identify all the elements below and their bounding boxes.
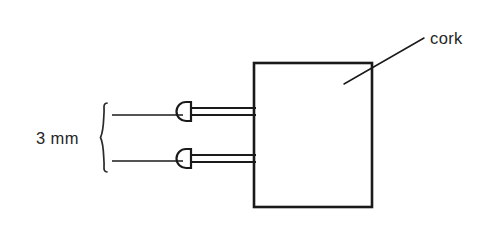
- dimension-brace-icon: [101, 103, 108, 172]
- cork-block: [254, 63, 372, 207]
- lower-pin-head: [177, 149, 191, 168]
- diagram-canvas: 3 mm cork: [0, 0, 504, 234]
- dimension-label: 3 mm: [36, 129, 79, 147]
- cork-label: cork: [430, 29, 463, 47]
- lower-pin: [177, 149, 256, 168]
- upper-pin: [177, 102, 257, 121]
- cork-leader-line: [344, 38, 424, 84]
- upper-pin-head: [177, 102, 192, 121]
- cork-pin-diagram: 3 mm cork: [0, 0, 504, 234]
